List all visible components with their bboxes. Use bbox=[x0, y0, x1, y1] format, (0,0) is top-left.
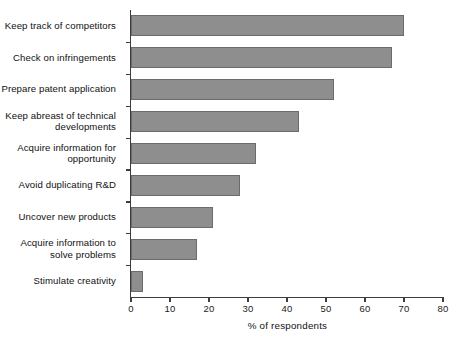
x-axis-tick-label: 60 bbox=[360, 303, 371, 314]
x-axis-tick-label: 70 bbox=[399, 303, 410, 314]
x-axis-title: % of respondents bbox=[131, 320, 444, 331]
category-tick bbox=[126, 201, 131, 202]
bar bbox=[131, 79, 334, 100]
x-axis-tick bbox=[286, 297, 287, 302]
x-axis-tick bbox=[403, 297, 404, 302]
bar bbox=[131, 175, 240, 196]
x-axis-tick-label: 20 bbox=[204, 303, 215, 314]
x-axis-tick bbox=[442, 297, 443, 302]
category-tick bbox=[126, 42, 131, 43]
bar bbox=[131, 143, 256, 164]
category-label: Stimulate creativity bbox=[0, 275, 124, 287]
category-tick bbox=[126, 106, 131, 107]
bar bbox=[131, 111, 299, 132]
x-axis-tick bbox=[364, 297, 365, 302]
x-axis-tick-label: 10 bbox=[165, 303, 176, 314]
x-axis-tick bbox=[169, 297, 170, 302]
category-tick bbox=[126, 74, 131, 75]
category-tick bbox=[126, 138, 131, 139]
category-label: Acquire information for opportunity bbox=[0, 142, 124, 165]
plot-area bbox=[131, 10, 443, 297]
category-tick bbox=[126, 233, 131, 234]
x-axis-tick-label: 80 bbox=[438, 303, 449, 314]
category-label: Acquire information to solve problems bbox=[0, 237, 124, 260]
category-label: Prepare patent application bbox=[0, 83, 124, 95]
category-tick bbox=[126, 265, 131, 266]
bar bbox=[131, 47, 392, 68]
category-label: Keep track of competitors bbox=[0, 20, 124, 32]
bar bbox=[131, 239, 197, 260]
category-label: Keep abreast of technical developments bbox=[0, 110, 124, 133]
bar bbox=[131, 15, 404, 36]
category-label: Avoid duplicating R&D bbox=[0, 179, 124, 191]
x-axis-tick bbox=[325, 297, 326, 302]
x-axis-tick-label: 0 bbox=[128, 303, 133, 314]
bar-chart: Keep track of competitorsCheck on infrin… bbox=[0, 0, 455, 346]
bar bbox=[131, 207, 213, 228]
category-tick bbox=[126, 169, 131, 170]
x-axis-tick bbox=[247, 297, 248, 302]
x-axis-tick-label: 40 bbox=[282, 303, 293, 314]
category-label: Check on infringements bbox=[0, 52, 124, 64]
x-axis-tick-label: 30 bbox=[243, 303, 254, 314]
x-axis-tick bbox=[208, 297, 209, 302]
category-axis-labels: Keep track of competitorsCheck on infrin… bbox=[0, 0, 124, 346]
x-axis-tick-label: 50 bbox=[321, 303, 332, 314]
bar bbox=[131, 271, 143, 292]
category-label: Uncover new products bbox=[0, 211, 124, 223]
x-axis-tick bbox=[130, 297, 131, 302]
